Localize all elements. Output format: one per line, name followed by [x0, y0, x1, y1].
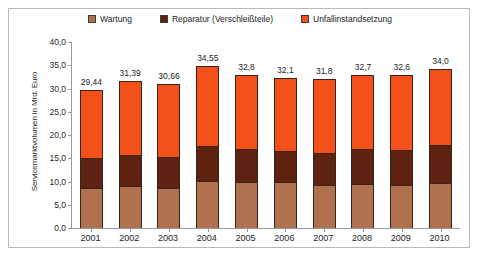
legend-label-wartung: Wartung	[100, 15, 132, 24]
bar-value-label: 34,0	[432, 56, 449, 66]
bar-value-label: 32,1	[277, 65, 294, 75]
bar-value-label: 34,55	[197, 53, 218, 63]
x-axis-label: 2004	[193, 233, 221, 243]
legend-swatch-wartung-icon	[88, 15, 96, 23]
bar-segment[interactable]	[275, 182, 296, 228]
plot-area: 40,035,030,025,020,015,010,05,00,0 29,44…	[71, 42, 460, 229]
bar-segment[interactable]	[430, 145, 451, 184]
bar-group[interactable]: 29,44	[77, 42, 105, 228]
bar-segment[interactable]	[120, 155, 141, 186]
bar-group[interactable]: 31,39	[116, 42, 144, 228]
bar-segment[interactable]	[275, 151, 296, 182]
bar-value-label: 31,8	[316, 66, 333, 76]
bar-group[interactable]: 34,55	[194, 42, 222, 228]
legend-item-wartung: Wartung	[88, 15, 132, 24]
x-axis-label: 2010	[426, 233, 454, 243]
bar-segment[interactable]	[120, 186, 141, 228]
x-axis-label: 2001	[76, 233, 104, 243]
bar-segment[interactable]	[430, 183, 451, 228]
x-axis-label: 2009	[387, 233, 415, 243]
bar-segment[interactable]	[391, 76, 412, 150]
bar-stack[interactable]: 34,55	[196, 66, 219, 228]
bar-stack[interactable]: 32,8	[235, 75, 258, 229]
x-axis-label: 2003	[154, 233, 182, 243]
bar-stack[interactable]: 32,7	[351, 75, 374, 228]
legend-swatch-reparatur-icon	[160, 15, 168, 23]
bar-segment[interactable]	[314, 185, 335, 228]
x-axis-label: 2006	[270, 233, 298, 243]
x-axis-tick-mark	[91, 228, 92, 232]
x-axis-label: 2007	[309, 233, 337, 243]
bar-segment[interactable]	[158, 85, 179, 157]
bar-segment[interactable]	[197, 181, 218, 228]
bar-segment[interactable]	[81, 188, 102, 228]
x-axis-labels: 2001200220032004200520062007200820092010	[71, 233, 459, 243]
bar-stack[interactable]: 32,6	[390, 75, 413, 228]
bar-group[interactable]: 30,66	[155, 42, 183, 228]
bar-segment[interactable]	[391, 185, 412, 228]
bar-stack[interactable]: 29,44	[80, 90, 103, 228]
bar-segment[interactable]	[430, 70, 451, 145]
bar-segment[interactable]	[275, 79, 296, 151]
bar-segment[interactable]	[236, 182, 257, 228]
bar-segment[interactable]	[81, 91, 102, 158]
bar-group[interactable]: 32,8	[233, 42, 261, 228]
bar-segment[interactable]	[391, 150, 412, 184]
chart-legend: Wartung Reparatur (Verschleißteile) Unfa…	[9, 15, 471, 24]
bar-segment[interactable]	[120, 82, 141, 155]
bar-segment[interactable]	[236, 76, 257, 149]
bar-value-label: 32,7	[355, 62, 372, 72]
x-axis-tick-mark	[285, 228, 286, 232]
x-axis-tick-mark	[441, 228, 442, 232]
bar-stack[interactable]: 31,39	[119, 81, 142, 228]
bar-value-label: 30,66	[158, 71, 179, 81]
x-axis-label: 2002	[115, 233, 143, 243]
legend-label-reparatur: Reparatur (Verschleißteile)	[172, 15, 273, 24]
bar-stack[interactable]: 34,0	[429, 69, 452, 228]
x-axis-tick-mark	[324, 228, 325, 232]
bar-segment[interactable]	[81, 158, 102, 188]
bar-segment[interactable]	[158, 157, 179, 187]
bar-value-label: 31,39	[120, 68, 141, 78]
bar-stack[interactable]: 32,1	[274, 78, 297, 228]
bar-value-label: 32,8	[238, 62, 255, 72]
bar-segment[interactable]	[314, 80, 335, 153]
bar-segment[interactable]	[352, 184, 373, 228]
legend-label-unfallinstandsetzung: Unfallinstandsetzung	[313, 15, 392, 24]
bar-segment[interactable]	[197, 67, 218, 146]
bar-segment[interactable]	[197, 146, 218, 181]
bar-group[interactable]: 31,8	[310, 42, 338, 228]
bar-group[interactable]: 32,6	[388, 42, 416, 228]
bar-group[interactable]: 32,7	[349, 42, 377, 228]
bar-segment[interactable]	[352, 76, 373, 149]
x-axis-label: 2008	[348, 233, 376, 243]
bar-group[interactable]: 34,0	[427, 42, 455, 228]
bar-segment[interactable]	[352, 149, 373, 183]
y-axis-tick-mark	[68, 228, 72, 229]
legend-swatch-unfallinstandsetzung-icon	[301, 15, 309, 23]
x-axis-tick-mark	[363, 228, 364, 232]
bar-segment[interactable]	[236, 149, 257, 182]
x-axis-tick-mark	[208, 228, 209, 232]
x-axis-label: 2005	[232, 233, 260, 243]
x-axis-tick-mark	[247, 228, 248, 232]
y-axis-title: Servicemarktvolumen in Mrd. Euro	[30, 47, 39, 217]
chart-container: Wartung Reparatur (Verschleißteile) Unfa…	[8, 8, 470, 248]
bar-stack[interactable]: 31,8	[313, 79, 336, 228]
legend-item-unfallinstandsetzung: Unfallinstandsetzung	[301, 15, 392, 24]
legend-item-reparatur: Reparatur (Verschleißteile)	[160, 15, 273, 24]
x-axis-tick-mark	[169, 228, 170, 232]
bar-segment[interactable]	[158, 188, 179, 228]
bar-group[interactable]: 32,1	[271, 42, 299, 228]
bar-stack[interactable]: 30,66	[157, 84, 180, 228]
x-axis-tick-mark	[130, 228, 131, 232]
bar-series-group: 29,4431,3930,6634,5532,832,131,832,732,6…	[72, 42, 460, 228]
bar-value-label: 29,44	[81, 77, 102, 87]
bar-value-label: 32,6	[393, 62, 410, 72]
bar-segment[interactable]	[314, 153, 335, 185]
x-axis-tick-mark	[402, 228, 403, 232]
